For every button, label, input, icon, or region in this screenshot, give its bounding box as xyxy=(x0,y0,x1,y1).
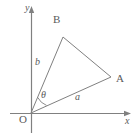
x-axis-label: x xyxy=(125,116,129,126)
angle-label-theta: θ xyxy=(41,90,46,100)
segment-ob xyxy=(31,37,63,113)
y-axis-arrowhead xyxy=(29,6,34,13)
segment-ba xyxy=(63,37,111,77)
segment-label-b: b xyxy=(35,57,40,67)
segment-label-a: a xyxy=(75,92,80,102)
y-axis-label: y xyxy=(25,3,29,13)
point-label-b: B xyxy=(53,14,60,25)
geometry-figure: B A O y x b a θ xyxy=(0,0,138,140)
point-label-a: A xyxy=(116,73,124,84)
origin-label: O xyxy=(19,114,27,125)
